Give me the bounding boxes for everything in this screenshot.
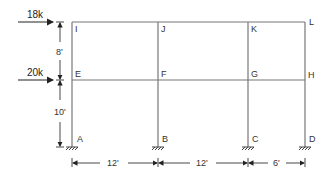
fixed-supports — [66, 147, 311, 150]
node-label-L: L — [309, 17, 314, 27]
load-label-18k: 18k — [27, 9, 44, 20]
span-label-BC: 12' — [196, 158, 208, 168]
loads: 18k 20k — [18, 9, 53, 80]
frame-diagram: I J K L E F G H A B C D 18k 20k 8' 10' — [0, 0, 329, 174]
support-D-icon — [299, 147, 311, 150]
support-A-icon — [66, 147, 78, 150]
node-label-H: H — [308, 70, 315, 80]
node-label-D: D — [309, 134, 316, 144]
node-label-C: C — [252, 134, 259, 144]
node-label-I: I — [75, 24, 78, 34]
support-C-icon — [242, 147, 254, 150]
height-label-lower: 10' — [54, 107, 66, 117]
node-label-J: J — [161, 24, 166, 34]
node-label-F: F — [161, 69, 167, 79]
node-label-A: A — [77, 134, 83, 144]
height-dimensions — [56, 22, 64, 147]
span-label-CD: 6' — [273, 158, 280, 168]
frame-members — [72, 22, 305, 147]
height-label-upper: 8' — [56, 47, 63, 57]
span-label-AB: 12' — [107, 158, 119, 168]
node-label-K: K — [251, 24, 257, 34]
node-label-G: G — [251, 69, 258, 79]
node-label-E: E — [75, 69, 81, 79]
node-label-B: B — [162, 134, 168, 144]
support-B-icon — [152, 147, 164, 150]
load-label-20k: 20k — [27, 67, 44, 78]
